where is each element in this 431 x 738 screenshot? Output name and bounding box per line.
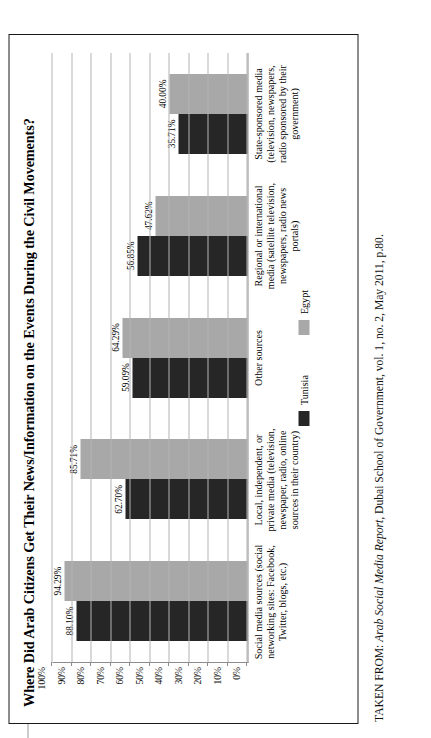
bar-egypt[interactable]: 85.71% <box>80 439 247 479</box>
bar-egypt[interactable]: 64.29% <box>122 318 247 358</box>
legend-swatch <box>298 411 309 426</box>
bar-tunisia[interactable]: 62.70% <box>125 479 247 519</box>
y-tick-mark <box>187 662 188 666</box>
gridline <box>129 53 130 662</box>
y-tick-mark <box>226 662 227 666</box>
y-tick-mark <box>90 662 91 666</box>
bar-value-label: 40.00% <box>157 80 167 109</box>
category-label: Social media sources (social networking … <box>252 541 300 663</box>
bar-tunisia[interactable]: 88.10% <box>76 601 248 641</box>
gridline <box>227 53 228 662</box>
y-tick-label: 90% <box>55 667 66 685</box>
bar-tunisia[interactable]: 56.85% <box>137 236 248 276</box>
gridline <box>110 53 111 662</box>
gridline <box>246 53 247 662</box>
gridline <box>51 53 52 662</box>
y-tick-label: 20% <box>192 667 203 685</box>
y-tick-mark <box>246 662 247 666</box>
bar-value-label: 59.09% <box>120 363 130 392</box>
y-tick-mark <box>207 662 208 666</box>
source-rest: , Dubai School of Government, vol. 1, no… <box>372 234 385 520</box>
legend-label: Tunisia <box>298 375 309 405</box>
y-tick-label: 40% <box>153 667 164 685</box>
y-tick-label: 60% <box>114 667 125 685</box>
source-title: Arab Social Media Report <box>372 520 385 642</box>
gridline <box>149 53 150 662</box>
bar-value-label: 85.71% <box>68 445 78 474</box>
gridline <box>188 53 189 662</box>
page-edge-rule <box>27 724 28 738</box>
category-label: Local, independent, or private media (te… <box>252 419 300 541</box>
y-tick-mark <box>109 662 110 666</box>
bar-value-label: 47.62% <box>143 201 153 230</box>
gridline <box>71 53 72 662</box>
plot-wrapper: 88.10%94.29%62.70%85.71%59.09%64.29%56.8… <box>48 47 318 709</box>
y-tick-label: 100% <box>36 667 47 689</box>
figure-stage: Where Did Arab Citizens Get Their News/I… <box>0 0 431 738</box>
y-tick-mark <box>70 662 71 666</box>
y-tick-label: 10% <box>211 667 222 685</box>
bar-value-label: 62.70% <box>113 485 123 514</box>
figure-frame: Where Did Arab Citizens Get Their News/I… <box>8 34 358 724</box>
chart-title: Where Did Arab Citizens Get Their News/I… <box>20 47 36 707</box>
legend-swatch <box>298 320 309 335</box>
y-tick-mark <box>51 662 52 666</box>
category-axis-labels: Social media sources (social networking … <box>252 53 300 663</box>
chart-legend: TunisiaEgypt <box>298 53 309 663</box>
y-tick-label: 0% <box>231 667 242 680</box>
y-tick-mark <box>168 662 169 666</box>
y-tick-mark <box>148 662 149 666</box>
y-tick-mark <box>129 662 130 666</box>
y-tick-label: 80% <box>75 667 86 685</box>
y-tick-label: 30% <box>172 667 183 685</box>
category-label: State-sponsored media (television, newsp… <box>252 53 300 175</box>
plot-area: 88.10%94.29%62.70%85.71%59.09%64.29%56.8… <box>52 53 248 663</box>
bar-value-label: 94.29% <box>52 567 62 596</box>
legend-label: Egypt <box>298 290 309 314</box>
gridline <box>168 53 169 662</box>
category-label: Other sources <box>252 297 300 419</box>
y-tick-label: 50% <box>133 667 144 685</box>
y-tick-label: 70% <box>94 667 105 685</box>
page-inner: Where Did Arab Citizens Get Their News/I… <box>0 0 431 738</box>
gridline <box>90 53 91 662</box>
legend-item[interactable]: Egypt <box>298 290 309 335</box>
source-prefix: TAKEN FROM: <box>372 642 385 722</box>
legend-item[interactable]: Tunisia <box>298 375 309 426</box>
gridline <box>207 53 208 662</box>
bar-value-label: 64.29% <box>110 323 120 352</box>
bar-value-label: 35.71% <box>166 120 176 149</box>
category-label: Regional or international media (satelli… <box>252 175 300 297</box>
source-caption: TAKEN FROM: Arab Social Media Report, Du… <box>372 234 385 722</box>
